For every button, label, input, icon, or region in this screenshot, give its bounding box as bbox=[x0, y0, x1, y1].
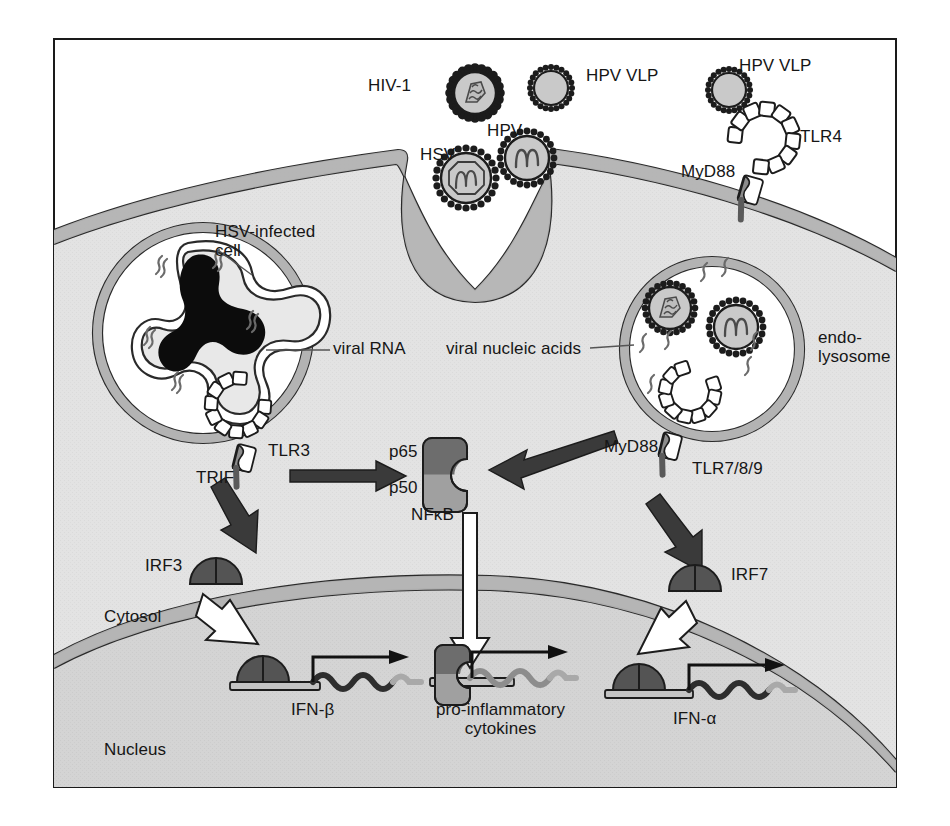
label-hpv: HPV bbox=[487, 121, 522, 140]
label-p65: p65 bbox=[389, 442, 418, 461]
label-cytosol: Cytosol bbox=[104, 607, 161, 626]
label-hpv-vlp-right: HPV VLP bbox=[739, 56, 812, 75]
label-hsv-infected-cell: HSV-infected cell bbox=[215, 222, 315, 260]
figure-canvas: HIV-1 HPV VLP HPV VLP HSV HPV TLR4 MyD88… bbox=[0, 0, 950, 826]
label-myd88-top: MyD88 bbox=[681, 162, 735, 181]
label-pro-inflammatory-cytokines: pro-inflammatory cytokines bbox=[436, 700, 565, 738]
virion-hiv1 bbox=[447, 65, 504, 122]
label-nfkb: NFκB bbox=[411, 505, 454, 524]
label-irf7: IRF7 bbox=[731, 565, 768, 584]
endolysosome bbox=[620, 257, 804, 441]
label-trif: TRIF bbox=[196, 468, 234, 487]
label-tlr4: TLR4 bbox=[800, 127, 842, 146]
label-ifn-beta: IFN-β bbox=[291, 700, 334, 719]
label-endolysosome: endo- lysosome bbox=[818, 328, 891, 366]
label-hpv-vlp-center: HPV VLP bbox=[586, 66, 659, 85]
virion-hpv-vlp-center bbox=[527, 64, 575, 112]
label-viral-nucleic-acids: viral nucleic acids bbox=[446, 339, 581, 358]
label-nucleus: Nucleus bbox=[104, 740, 166, 759]
label-tlr3: TLR3 bbox=[268, 441, 310, 460]
label-p50: p50 bbox=[389, 478, 418, 497]
label-myd88-right: MyD88 bbox=[604, 437, 658, 456]
label-hsv: HSV bbox=[420, 145, 455, 164]
label-viral-rna: viral RNA bbox=[333, 339, 406, 358]
label-hiv1: HIV-1 bbox=[368, 76, 411, 95]
label-tlr789: TLR7/8/9 bbox=[692, 459, 763, 478]
label-ifn-alpha: IFN-α bbox=[673, 709, 716, 728]
label-irf3: IRF3 bbox=[145, 556, 182, 575]
